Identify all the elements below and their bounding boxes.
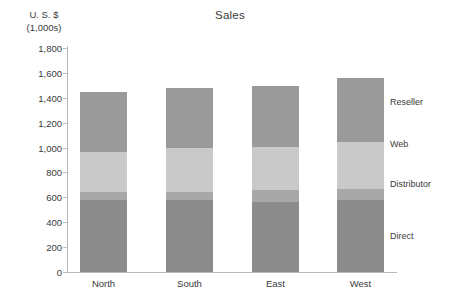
bar-segment-distributor-west[interactable] [337,189,384,201]
x-category-label-south: South [145,278,235,289]
bar-segment-distributor-north[interactable] [80,192,127,201]
bar-segment-direct-north[interactable] [80,200,127,272]
y-axis-unit-line2: (1,000s) [8,21,80,34]
bar-segment-reseller-north[interactable] [80,92,127,152]
y-tick-label: 0 [0,267,62,278]
bar-segment-web-west[interactable] [337,142,384,189]
legend-item-direct[interactable]: Direct [390,231,414,241]
bar-segment-web-east[interactable] [252,147,299,190]
legend-item-web[interactable]: Web [390,139,408,149]
bar-segment-reseller-south[interactable] [166,88,213,148]
x-category-label-north: North [59,278,149,289]
y-tick-label: 200 [0,242,62,253]
bar-group-east[interactable] [252,48,299,272]
y-tick-label: 400 [0,217,62,228]
x-axis-line [67,272,397,273]
y-tick-label: 1,400 [0,92,62,103]
bar-group-north[interactable] [80,48,127,272]
y-tick-label: 1,200 [0,117,62,128]
bar-segment-distributor-east[interactable] [252,190,299,202]
bar-segment-direct-west[interactable] [337,200,384,272]
bar-group-south[interactable] [166,48,213,272]
legend-item-distributor[interactable]: Distributor [390,179,431,189]
legend-item-reseller[interactable]: Reseller [390,97,423,107]
bar-segment-web-south[interactable] [166,148,213,192]
bar-group-west[interactable] [337,48,384,272]
y-tick-label: 1,600 [0,67,62,78]
sales-stacked-bar-chart: Sales U. S. $ (1,000s) 02004006008001,00… [0,0,460,307]
y-axis-unit-label: U. S. $ (1,000s) [8,8,80,34]
y-tick-label: 600 [0,192,62,203]
y-tick-label: 1,800 [0,43,62,54]
x-category-label-east: East [231,278,321,289]
x-category-label-west: West [316,278,406,289]
plot-area [67,48,396,272]
bar-segment-reseller-west[interactable] [337,78,384,142]
bar-segment-direct-south[interactable] [166,200,213,272]
bar-segment-direct-east[interactable] [252,202,299,272]
bar-segment-distributor-south[interactable] [166,192,213,201]
y-tick-label: 1,000 [0,142,62,153]
y-tick-mark [63,272,67,273]
y-tick-label: 800 [0,167,62,178]
bar-segment-web-north[interactable] [80,152,127,192]
bar-segment-reseller-east[interactable] [252,86,299,147]
y-axis-unit-line1: U. S. $ [8,8,80,21]
